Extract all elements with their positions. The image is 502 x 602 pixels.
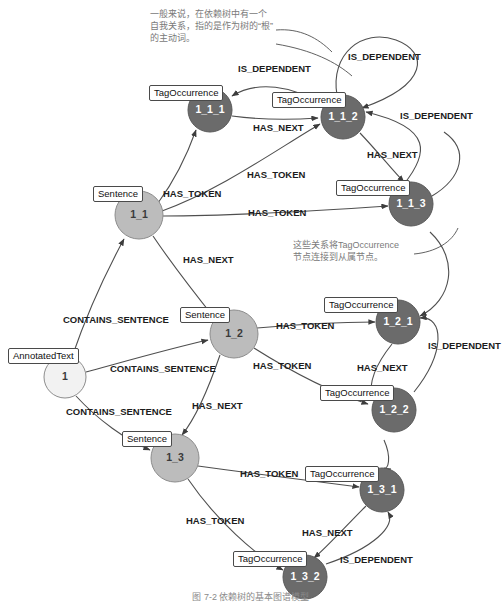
relationship-label: HAS_TOKEN — [253, 360, 312, 371]
relationship-label: IS_DEPENDENT — [340, 554, 413, 565]
node-id-label: 1_3 — [166, 451, 184, 463]
node-type-tag-1_3_1: TagOccurrence — [305, 466, 379, 482]
relationship-label: HAS_NEXT — [253, 122, 304, 133]
figure-caption: 图 7-2 依赖树的基本图谱模型 — [0, 590, 502, 602]
relationship-label: HAS_TOKEN — [163, 188, 222, 199]
relationship-label: IS_DEPENDENT — [400, 110, 473, 121]
node-type-tag-1: AnnotatedText — [8, 348, 79, 364]
relationship-label: HAS_TOKEN — [247, 169, 306, 180]
graph-diagram: 11_11_21_31_1_11_1_21_1_31_2_11_2_21_3_1… — [0, 0, 502, 602]
node-id-label: 1_1 — [130, 208, 148, 220]
node-id-label: 1_3_1 — [367, 483, 396, 495]
node-type-tag-1_1_2: TagOccurrence — [272, 92, 346, 108]
node-type-tag-1_1_3: TagOccurrence — [336, 180, 410, 196]
edge-is-dependent-1-2-2-to-1-3-1 — [384, 440, 389, 468]
node-id-label: 1_1_1 — [195, 103, 224, 115]
edges-contains-sentence — [72, 239, 208, 450]
node-id-label: 1_3_2 — [290, 570, 319, 582]
edge-label-layer: CONTAINS_SENTENCECONTAINS_SENTENCECONTAI… — [63, 51, 501, 565]
note-dependency: 这些关系将TagOccurrence 节点连接到从属节点。 — [293, 239, 413, 263]
node-type-tag-1_1: Sentence — [93, 186, 143, 202]
node-id-label: 1_2 — [225, 327, 243, 339]
relationship-label: IS_DEPENDENT — [428, 340, 501, 351]
relationship-label: HAS_NEXT — [302, 527, 353, 538]
node-id-label: 1_1_2 — [328, 110, 357, 122]
node-type-tag-1_2_2: TagOccurrence — [320, 385, 394, 401]
relationship-label: HAS_NEXT — [192, 400, 243, 411]
relationship-label: HAS_TOKEN — [240, 468, 299, 479]
node-type-tag-1_3: Sentence — [122, 431, 172, 447]
node-id-label: 1_2_2 — [379, 403, 408, 415]
edge-is-dependent-1-1-3-to-1-2-1 — [420, 232, 449, 316]
relationship-label: HAS_TOKEN — [186, 515, 245, 526]
note-self-relation: 一般来说，在依赖树中有一个 自我关系，指的是作为树的“根” 的主动词。 — [150, 8, 275, 44]
node-id-label: 1_1_3 — [396, 197, 425, 209]
relationship-label: HAS_NEXT — [367, 149, 418, 160]
node-type-tag-1_3_2: TagOccurrence — [233, 551, 307, 567]
node-type-tag-1_2_1: TagOccurrence — [324, 297, 398, 313]
relationship-label: HAS_TOKEN — [248, 207, 307, 218]
node-id-label: 1_2_1 — [383, 315, 412, 327]
edge-contains-sentence-1-1 — [72, 239, 124, 357]
edge-has-next-1-1-1-to-1-1-2 — [232, 116, 318, 119]
relationship-label: IS_DEPENDENT — [348, 51, 421, 62]
relationship-label: HAS_NEXT — [357, 362, 408, 373]
relationship-label: HAS_NEXT — [183, 254, 234, 265]
relationship-label: IS_DEPENDENT — [238, 63, 311, 74]
node-id-label: 1 — [62, 370, 68, 382]
note-leader-self-relation — [276, 30, 332, 52]
relationship-label: CONTAINS_SENTENCE — [66, 406, 172, 417]
node-type-tag-1_1_1: TagOccurrence — [149, 85, 223, 101]
relationship-label: CONTAINS_SENTENCE — [110, 363, 216, 374]
relationship-label: HAS_TOKEN — [276, 320, 335, 331]
relationship-label: CONTAINS_SENTENCE — [63, 314, 169, 325]
graph-canvas: 11_11_21_31_1_11_1_21_1_31_2_11_2_21_3_1… — [0, 0, 502, 602]
node-type-tag-1_2: Sentence — [180, 307, 230, 323]
note-leader-dependency — [414, 228, 458, 254]
edge-is-dependent-1-1-3-arc — [432, 132, 460, 196]
